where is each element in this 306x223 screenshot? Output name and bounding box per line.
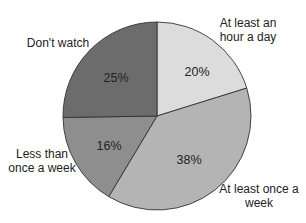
category-label-less-than-once-a-week: Less thanonce a week: [8, 147, 76, 175]
percent-label: 16%: [96, 139, 121, 153]
category-label-at-least-once-a-week: At least once aweek: [219, 182, 299, 210]
category-label-don-t-watch: Don't watch: [27, 36, 89, 50]
percent-label: 25%: [103, 71, 128, 85]
percent-label: 20%: [184, 65, 209, 79]
pie-chart: 20%38%16%25% At least anhour a dayAt lea…: [0, 0, 306, 223]
percent-label: 38%: [176, 153, 201, 167]
category-label-at-least-an-hour-a-day: At least anhour a day: [220, 16, 277, 44]
